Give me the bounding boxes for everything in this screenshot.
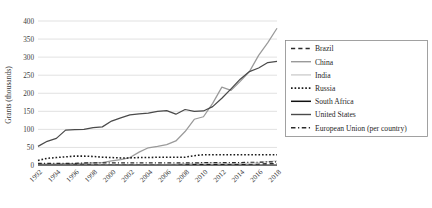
legend-label-brazil: Brazil (315, 44, 334, 53)
y-axis-title: Grants (thousands) (4, 66, 13, 124)
legend-label-south-africa: South Africa (315, 97, 354, 106)
y-tick-label: 200 (23, 90, 34, 98)
y-tick-label: 100 (23, 126, 34, 134)
legend-label-india: India (315, 71, 331, 80)
legend-label-china: China (315, 58, 334, 67)
y-tick-label: 50 (27, 144, 35, 152)
y-tick-label: 400 (23, 18, 34, 26)
legend-label-united-states: United States (315, 110, 356, 119)
y-tick-label: 300 (23, 54, 34, 62)
legend-label-russia: Russia (315, 84, 336, 93)
chart-legend: BrazilChinaIndiaRussiaSouth AfricaUnited… (286, 41, 428, 137)
y-tick-label: 150 (23, 108, 34, 116)
y-tick-label: 0 (30, 162, 34, 170)
y-tick-label: 350 (23, 36, 34, 44)
grants-line-chart: 050100150200250300350400 Grants (thousan… (0, 0, 432, 208)
legend-label-european-union-per-country: European Union (per country) (315, 124, 407, 133)
y-tick-label: 250 (23, 72, 34, 80)
